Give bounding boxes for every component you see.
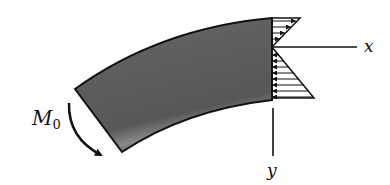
curved-beam [75, 18, 272, 152]
moment-label: M0 [31, 106, 61, 132]
x-axis-label: x [364, 36, 374, 56]
y-axis-label: y [266, 160, 277, 180]
beam-diagram: M0 x y [0, 0, 390, 185]
stress-distribution [272, 18, 314, 98]
